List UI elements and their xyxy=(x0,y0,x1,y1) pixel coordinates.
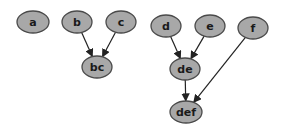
node-e: e xyxy=(195,15,225,37)
arrow-icon xyxy=(191,36,204,59)
arrow-icon xyxy=(171,36,181,58)
node-a: a xyxy=(17,11,49,33)
node-label: def xyxy=(176,106,196,119)
edge-e-to-de xyxy=(191,36,204,59)
arrow-icon xyxy=(194,37,246,102)
node-bc: bc xyxy=(82,56,112,78)
nodes-layer: abcbcdefdedef xyxy=(17,11,268,123)
edge-c-to-bc xyxy=(102,32,115,57)
node-c: c xyxy=(106,11,136,33)
node-label: e xyxy=(206,20,213,33)
node-label: d xyxy=(162,20,170,33)
node-f: f xyxy=(238,17,268,39)
edge-f-to-def xyxy=(194,37,246,102)
node-def: def xyxy=(170,101,202,123)
node-label: a xyxy=(29,16,36,29)
node-b: b xyxy=(62,11,92,33)
node-label: c xyxy=(118,16,125,29)
arrow-icon xyxy=(102,32,115,57)
arrow-icon xyxy=(82,32,93,56)
graph-canvas: abcbcdefdedef xyxy=(0,0,286,134)
edge-b-to-bc xyxy=(82,32,93,56)
node-label: f xyxy=(251,22,256,35)
node-d: d xyxy=(151,15,181,37)
node-label: bc xyxy=(90,61,104,74)
node-label: de xyxy=(177,63,192,76)
edge-d-to-de xyxy=(171,36,181,58)
node-de: de xyxy=(170,58,200,80)
node-label: b xyxy=(73,16,81,29)
